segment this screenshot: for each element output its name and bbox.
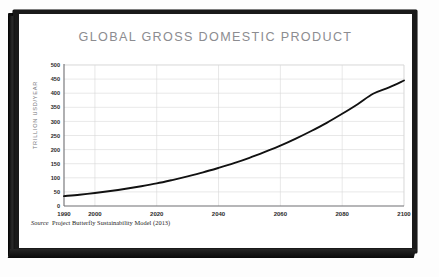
x-tick-label: 2060 <box>274 211 288 217</box>
y-tick-label: 250 <box>51 133 60 139</box>
y-axis-tick-labels: 050100150200250300350400450500 <box>51 62 60 209</box>
y-tick-label: 350 <box>51 104 60 110</box>
x-axis-tick-labels: 1990200020202040206020802100 <box>57 211 411 217</box>
gridlines-horizontal <box>64 65 404 192</box>
x-tick-label: 2040 <box>212 211 226 217</box>
x-tick-label: 1990 <box>57 211 71 217</box>
page-background: GLOBAL GROSS DOMESTIC PRODUCT 0501001502… <box>0 0 439 277</box>
source-note: Source Project Butterfly Sustainability … <box>31 219 170 226</box>
y-tick-label: 500 <box>51 62 60 68</box>
data-series-gdp <box>64 81 404 197</box>
plot-area: 050100150200250300350400450500 199020002… <box>19 14 412 248</box>
axis-lines <box>64 64 404 206</box>
x-tick-label: 2100 <box>397 211 411 217</box>
y-tick-label: 200 <box>51 147 60 153</box>
y-tick-label: 150 <box>51 161 60 167</box>
chart-svg: 050100150200250300350400450500 199020002… <box>19 14 412 248</box>
frame-bevel-bottom <box>8 249 416 258</box>
chart-canvas: GLOBAL GROSS DOMESTIC PRODUCT 0501001502… <box>19 14 412 248</box>
x-tick-label: 2000 <box>88 211 102 217</box>
source-text: Project Butterfly Sustainability Model (… <box>52 219 170 226</box>
gdp-line <box>64 81 404 197</box>
y-tick-label: 450 <box>51 76 60 82</box>
y-tick-label: 0 <box>57 203 60 209</box>
source-label: Source <box>31 219 49 226</box>
x-tick-label: 2080 <box>336 211 350 217</box>
y-tick-label: 50 <box>54 189 60 195</box>
x-tick-label: 2020 <box>150 211 164 217</box>
y-tick-label: 400 <box>51 90 60 96</box>
frame-bevel-left <box>8 16 15 256</box>
y-tick-label: 300 <box>51 119 60 125</box>
y-tick-label: 100 <box>51 175 60 181</box>
y-axis-title: TRILLION USD/YEAR <box>32 72 38 158</box>
